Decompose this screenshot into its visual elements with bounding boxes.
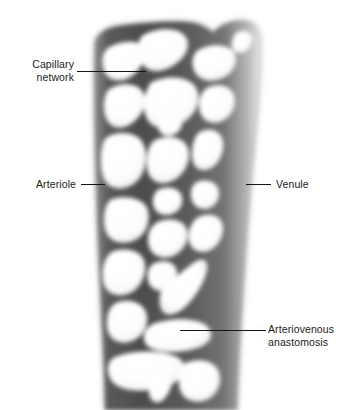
- leader-line-capillary-network: [77, 71, 146, 72]
- vessel-body-group: [94, 20, 262, 410]
- capillary-network-figure: Capillary network Arteriole Venule Arter…: [0, 0, 349, 410]
- label-arteriovenous-anastomosis: Arteriovenous anastomosis: [268, 323, 348, 348]
- leader-line-venule: [246, 184, 271, 185]
- leader-line-arteriole: [81, 184, 105, 185]
- label-capillary-network: Capillary network: [8, 58, 74, 83]
- leader-line-arteriovenous-anastomosis: [180, 330, 266, 331]
- label-arteriole: Arteriole: [18, 178, 76, 191]
- label-venule: Venule: [276, 178, 336, 191]
